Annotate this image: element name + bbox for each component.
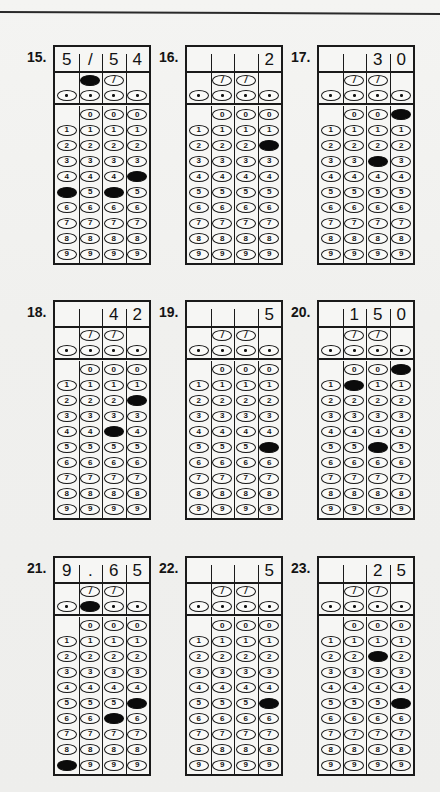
- digit-bubble[interactable]: 0: [80, 364, 100, 375]
- digit-bubble[interactable]: 2: [344, 651, 364, 662]
- digit-bubble[interactable]: 8: [236, 744, 256, 755]
- digit-bubble[interactable]: 3: [321, 156, 341, 167]
- digit-bubble[interactable]: 4: [391, 682, 411, 693]
- digit-bubble[interactable]: 6: [321, 457, 341, 468]
- digit-bubble[interactable]: 4: [236, 682, 256, 693]
- digit-bubble[interactable]: 5: [57, 442, 77, 453]
- digit-bubble[interactable]: 5: [391, 187, 411, 198]
- decimal-point-bubble[interactable]: [104, 90, 124, 101]
- digit-bubble-filled[interactable]: 5: [104, 187, 124, 198]
- digit-bubble[interactable]: 6: [127, 713, 147, 724]
- digit-bubble[interactable]: 4: [321, 426, 341, 437]
- digit-bubble[interactable]: 9: [391, 760, 411, 771]
- digit-bubble[interactable]: 5: [104, 698, 124, 709]
- written-answer-cell[interactable]: 5: [258, 302, 282, 326]
- digit-bubble[interactable]: 0: [344, 364, 364, 375]
- written-answer-cell[interactable]: [319, 47, 343, 71]
- digit-bubble[interactable]: 0: [259, 109, 279, 120]
- digit-bubble[interactable]: 8: [368, 233, 388, 244]
- digit-bubble[interactable]: 3: [321, 411, 341, 422]
- digit-bubble[interactable]: 1: [236, 380, 256, 391]
- digit-bubble[interactable]: 4: [57, 682, 77, 693]
- digit-bubble-filled[interactable]: 5: [127, 698, 147, 709]
- digit-bubble[interactable]: 0: [391, 620, 411, 631]
- digit-bubble[interactable]: 0: [80, 109, 100, 120]
- digit-bubble[interactable]: 7: [212, 729, 232, 740]
- digit-bubble[interactable]: 0: [127, 109, 147, 120]
- digit-bubble[interactable]: 0: [104, 620, 124, 631]
- fraction-bar-bubble[interactable]: /: [368, 75, 388, 86]
- written-answer-cell[interactable]: 0: [390, 47, 414, 71]
- digit-bubble[interactable]: 3: [344, 411, 364, 422]
- digit-bubble[interactable]: 5: [104, 442, 124, 453]
- decimal-point-bubble[interactable]: [80, 90, 100, 101]
- digit-bubble[interactable]: 1: [104, 380, 124, 391]
- digit-bubble[interactable]: 1: [391, 636, 411, 647]
- digit-bubble[interactable]: 5: [57, 698, 77, 709]
- digit-bubble[interactable]: 1: [368, 380, 388, 391]
- decimal-point-bubble[interactable]: [321, 90, 341, 101]
- digit-bubble[interactable]: 2: [189, 140, 209, 151]
- digit-bubble[interactable]: 5: [212, 442, 232, 453]
- digit-bubble-filled[interactable]: 2: [259, 140, 279, 151]
- digit-bubble[interactable]: 6: [368, 202, 388, 213]
- written-answer-cell[interactable]: [55, 302, 79, 326]
- digit-bubble[interactable]: 8: [212, 744, 232, 755]
- digit-bubble[interactable]: 5: [189, 442, 209, 453]
- digit-bubble[interactable]: 1: [321, 125, 341, 136]
- digit-bubble[interactable]: 2: [104, 395, 124, 406]
- digit-bubble[interactable]: 1: [321, 636, 341, 647]
- digit-bubble[interactable]: 8: [344, 488, 364, 499]
- digit-bubble[interactable]: 3: [236, 156, 256, 167]
- digit-bubble[interactable]: 1: [127, 636, 147, 647]
- written-answer-cell[interactable]: 5: [55, 47, 79, 71]
- decimal-point-bubble[interactable]: [104, 345, 124, 356]
- digit-bubble[interactable]: 4: [189, 171, 209, 182]
- digit-bubble[interactable]: 9: [391, 504, 411, 515]
- written-answer-cell[interactable]: 0: [390, 302, 414, 326]
- digit-bubble[interactable]: 8: [104, 488, 124, 499]
- digit-bubble-filled[interactable]: 2: [127, 395, 147, 406]
- digit-bubble[interactable]: 5: [344, 442, 364, 453]
- written-answer-cell[interactable]: [319, 302, 343, 326]
- written-answer-cell[interactable]: 5: [366, 302, 390, 326]
- digit-bubble[interactable]: 0: [127, 364, 147, 375]
- decimal-point-bubble[interactable]: [236, 90, 256, 101]
- fraction-bar-bubble[interactable]: /: [368, 586, 388, 597]
- written-answer-cell[interactable]: 2: [126, 302, 150, 326]
- digit-bubble[interactable]: 4: [212, 426, 232, 437]
- digit-bubble[interactable]: 9: [368, 249, 388, 260]
- digit-bubble[interactable]: 1: [212, 380, 232, 391]
- fraction-bar-bubble[interactable]: /: [236, 75, 256, 86]
- digit-bubble[interactable]: 3: [127, 667, 147, 678]
- digit-bubble[interactable]: 7: [368, 729, 388, 740]
- digit-bubble[interactable]: 3: [344, 156, 364, 167]
- digit-bubble[interactable]: 6: [321, 713, 341, 724]
- digit-bubble[interactable]: 3: [259, 156, 279, 167]
- digit-bubble[interactable]: 8: [57, 488, 77, 499]
- digit-bubble[interactable]: 3: [57, 667, 77, 678]
- digit-bubble[interactable]: 7: [368, 473, 388, 484]
- digit-bubble[interactable]: 1: [344, 636, 364, 647]
- digit-bubble[interactable]: 9: [344, 504, 364, 515]
- digit-bubble[interactable]: 9: [104, 249, 124, 260]
- digit-bubble[interactable]: 3: [368, 411, 388, 422]
- digit-bubble-filled[interactable]: 5: [391, 698, 411, 709]
- digit-bubble[interactable]: 7: [189, 473, 209, 484]
- digit-bubble[interactable]: 3: [236, 411, 256, 422]
- digit-bubble[interactable]: 1: [127, 380, 147, 391]
- digit-bubble[interactable]: 2: [391, 651, 411, 662]
- digit-bubble[interactable]: 9: [212, 760, 232, 771]
- digit-bubble[interactable]: 0: [368, 620, 388, 631]
- written-answer-row[interactable]: 5: [187, 558, 281, 584]
- digit-bubble[interactable]: 3: [259, 667, 279, 678]
- digit-bubble[interactable]: 4: [189, 682, 209, 693]
- digit-bubble-filled[interactable]: 3: [368, 156, 388, 167]
- digit-bubble[interactable]: 6: [80, 457, 100, 468]
- digit-bubble[interactable]: 3: [104, 411, 124, 422]
- written-answer-cell[interactable]: [234, 302, 258, 326]
- digit-bubble-filled[interactable]: 1: [344, 380, 364, 391]
- digit-bubble[interactable]: 7: [57, 473, 77, 484]
- digit-bubble[interactable]: 4: [259, 426, 279, 437]
- digit-bubble[interactable]: 0: [104, 109, 124, 120]
